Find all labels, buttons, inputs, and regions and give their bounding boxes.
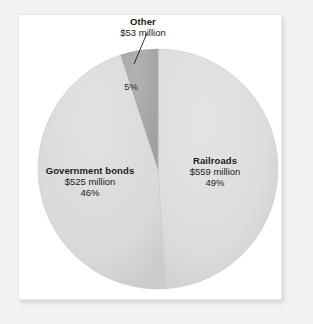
- slice-label-other-title: Other: [88, 16, 198, 27]
- slice-label-railroads-value: $559 million: [163, 166, 267, 177]
- slice-label-government-bonds-value: $525 million: [26, 176, 154, 187]
- pie-chart-area: Other $53 million 5% Railroads $559 mill…: [0, 0, 313, 324]
- slice-label-other-percent: 5%: [110, 81, 152, 92]
- slice-label-railroads-title: Railroads: [163, 155, 267, 166]
- slice-label-government-bonds-title: Government bonds: [26, 165, 154, 176]
- slice-label-other-value: $53 million: [88, 27, 198, 38]
- pie-chart-figure: Other $53 million 5% Railroads $559 mill…: [0, 0, 313, 324]
- slice-label-railroads: Railroads $559 million 49%: [163, 155, 267, 189]
- slice-label-railroads-percent: 49%: [163, 177, 267, 188]
- slice-label-other-percent-text: 5%: [110, 81, 152, 92]
- slice-label-government-bonds: Government bonds $525 million 46%: [26, 165, 154, 199]
- slice-label-other: Other $53 million: [88, 16, 198, 38]
- slice-label-government-bonds-percent: 46%: [26, 187, 154, 198]
